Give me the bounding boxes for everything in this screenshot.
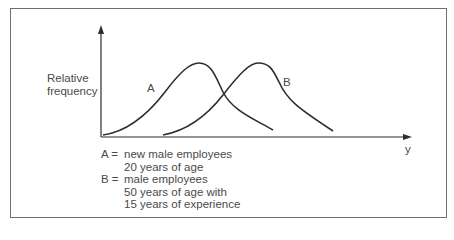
legend-key-b: B =: [101, 173, 124, 211]
legend: A = new male employees 20 years of age B…: [101, 148, 240, 211]
legend-a-line-1: new male employees: [124, 148, 232, 161]
x-axis-label: y: [405, 143, 411, 155]
x-axis-arrow-icon: [403, 134, 412, 140]
legend-b-line-3: 15 years of experience: [124, 198, 240, 211]
y-axis-label-line-1: Relative: [47, 72, 98, 85]
y-axis-label-line-2: frequency: [47, 85, 98, 98]
legend-entry-b: B = male employees 50 years of age with …: [101, 173, 240, 211]
curve-a-label: A: [147, 82, 155, 94]
legend-a-line-2: 20 years of age: [124, 161, 232, 174]
curve-b: [163, 63, 333, 135]
legend-entry-a: A = new male employees 20 years of age: [101, 148, 240, 173]
curve-b-label: B: [283, 76, 291, 88]
legend-key-a: A =: [101, 148, 124, 173]
y-axis-arrow-icon: [98, 25, 104, 34]
y-axis-label: Relative frequency: [47, 72, 98, 98]
legend-b-line-2: 50 years of age with: [124, 186, 240, 199]
legend-b-line-1: male employees: [124, 173, 240, 186]
curve-a: [103, 63, 273, 135]
